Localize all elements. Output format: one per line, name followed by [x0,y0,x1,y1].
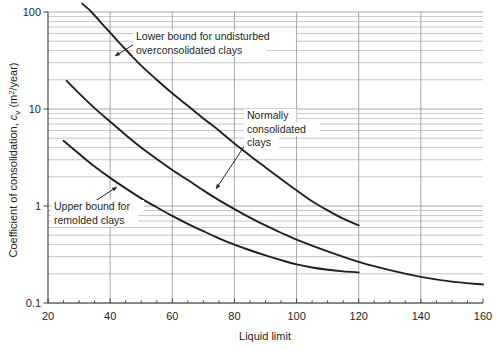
y-tick-label: 10 [29,103,41,115]
annotation-text-line: remolded clays [54,214,125,226]
consolidation-coefficient-chart: 20406080100120140160 0.1110100 Lower bou… [0,0,497,350]
x-tick-label: 120 [350,310,368,322]
annotation-text-line: Normally [247,109,289,121]
y-tick-labels: 0.1110100 [23,6,41,309]
upper-bound-annotation: Upper bound forremolded clays [51,200,144,227]
x-axis-title: Liquid limit [239,330,291,342]
y-tick-label: 1 [35,200,41,212]
annotation-text-line: Lower bound for undisturbed [136,30,270,42]
x-tick-label: 20 [42,310,54,322]
svg-text:Coefficient of consolidation,: Coefficient of consolidation, cv (m2/yea… [7,62,22,257]
annotation-text-line: Upper bound for [54,200,130,212]
x-tick-label: 100 [287,310,305,322]
annotation-text-line: clays [247,136,271,148]
x-tick-label: 160 [474,310,492,322]
y-axis-title: Coefficient of consolidation, cv (m2/yea… [7,62,22,257]
y-axis-title-units-open: (m [7,95,19,111]
annotation-text-line: consolidated [247,123,306,135]
chart-canvas: 20406080100120140160 0.1110100 Lower bou… [0,0,497,350]
x-tick-label: 140 [412,310,430,322]
x-tick-labels: 20406080100120140160 [42,310,492,322]
x-tick-label: 40 [104,310,116,322]
annotation-text-line: overconsolidated clays [136,44,242,56]
y-axis-title-lead: Coefficient of consolidation, [7,120,19,257]
y-tick-label: 100 [23,6,41,18]
y-tick-label: 0.1 [26,297,41,309]
x-tick-label: 80 [228,310,240,322]
y-axis-title-units-close: /year) [7,62,19,90]
x-tick-label: 60 [166,310,178,322]
